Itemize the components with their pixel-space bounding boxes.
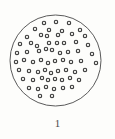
colony-dot [31, 78, 34, 81]
colony-dot [46, 61, 49, 64]
colony-dot [52, 87, 55, 90]
colony-dot [50, 48, 53, 51]
colony-dot [62, 41, 65, 44]
colony-dot [29, 41, 32, 44]
colony-dot [90, 52, 93, 55]
colony-dot [83, 34, 86, 37]
colony-dot [70, 85, 73, 88]
colony-dot [73, 70, 76, 73]
colony-dot [39, 58, 42, 61]
colony-dot [86, 43, 89, 46]
colony-dot [61, 58, 64, 61]
colony-dot [83, 68, 86, 71]
colony-dot [76, 49, 79, 52]
colony-dot-layer [14, 20, 97, 97]
colony-dot [18, 42, 21, 45]
figure-container: 1 [0, 0, 115, 139]
colony-dot [17, 68, 20, 71]
colony-dot [53, 59, 56, 62]
colony-dot [56, 33, 59, 36]
colony-dot [27, 86, 30, 89]
colony-dot [44, 47, 47, 50]
colony-dot [66, 50, 69, 53]
colony-dot [42, 21, 45, 24]
colony-dot [68, 76, 71, 79]
colony-dot [53, 77, 56, 80]
colony-dot [46, 78, 49, 81]
colony-dot [43, 68, 46, 71]
figure-caption: 1 [0, 117, 115, 130]
colony-dot [37, 49, 40, 52]
colony-dot [25, 50, 28, 53]
colony-dot [50, 94, 53, 97]
colony-dot [61, 86, 64, 89]
colony-dot [36, 70, 39, 73]
colony-dot [55, 41, 58, 44]
colony-dot [56, 69, 59, 72]
colony-dot [64, 68, 67, 71]
colony-dot [47, 41, 50, 44]
colony-dot [27, 69, 30, 72]
colony-dot [58, 51, 61, 54]
colony-dot [36, 87, 39, 90]
colony-dot [60, 29, 63, 32]
colony-dot [15, 51, 18, 54]
colony-dot [54, 20, 57, 23]
colony-dot [35, 44, 38, 47]
colony-dot [25, 35, 28, 38]
colony-dot [70, 32, 73, 35]
colony-dot [21, 77, 24, 80]
colony-dot [45, 34, 48, 37]
colony-dot [74, 40, 77, 43]
colony-dot [60, 78, 63, 81]
colony-dot [22, 58, 25, 61]
colony-dot [94, 61, 97, 64]
colony-dot [38, 94, 41, 97]
colony-dot [14, 60, 17, 63]
colony-dot [49, 71, 52, 74]
colony-dot [69, 60, 72, 63]
colony-dot [33, 27, 36, 30]
colony-dot [31, 60, 34, 63]
colony-dot [47, 28, 50, 31]
colony-dot [40, 76, 43, 79]
colony-dot [79, 59, 82, 62]
colony-dot [77, 78, 80, 81]
colony-dot [78, 28, 81, 31]
colony-dot [39, 33, 42, 36]
colony-dot [67, 21, 70, 24]
colony-dot [44, 85, 47, 88]
